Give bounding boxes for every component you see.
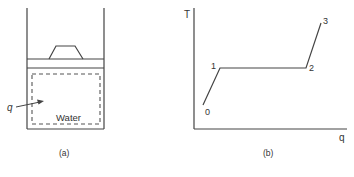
panel-a: q Water (a) bbox=[7, 8, 104, 158]
x-axis-label: q bbox=[339, 132, 345, 143]
arrowhead-icon bbox=[37, 100, 44, 105]
panel-b: T q 0 1 2 3 (b) bbox=[184, 8, 347, 158]
y-axis-label: T bbox=[184, 9, 190, 20]
point-label-1: 1 bbox=[211, 61, 216, 71]
point-label-2: 2 bbox=[309, 63, 314, 73]
panel-b-label: (b) bbox=[263, 148, 274, 158]
heat-arrow bbox=[16, 102, 40, 107]
heat-label: q bbox=[7, 102, 13, 113]
point-label-0: 0 bbox=[205, 107, 210, 117]
heating-curve bbox=[203, 23, 321, 105]
figure-caption-clipped: ▬▬▬ ▬▬ ▬▬▬▬ ▬▬▬▬ ▬▬ ▬▬▬▬ ▬▬▬▬▬ bbox=[58, 174, 298, 177]
water-label: Water bbox=[56, 112, 81, 123]
panel-a-label: (a) bbox=[59, 148, 70, 158]
point-label-3: 3 bbox=[323, 16, 328, 26]
caption-fragment: ▬▬▬ ▬▬ ▬▬▬▬ ▬▬▬▬ ▬▬ ▬▬▬▬ ▬▬▬▬▬ bbox=[58, 174, 298, 177]
weight-icon bbox=[49, 46, 83, 59]
figure-canvas: q Water (a) T q 0 1 2 3 (b) bbox=[0, 0, 354, 177]
